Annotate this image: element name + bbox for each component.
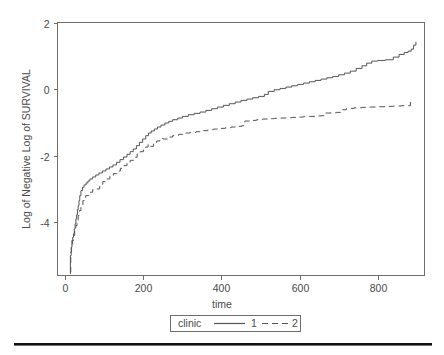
x-tick-label-600: 600	[292, 282, 310, 294]
survival-chart: 0200400600800 20-2-4 time Log of Negativ…	[0, 0, 444, 355]
y-tick-label-0: 0	[44, 84, 50, 96]
x-tick-label-400: 400	[213, 282, 231, 294]
y-axis-title: Log of Negative Log of SURVIVAL	[20, 69, 32, 229]
legend-title: clinic	[178, 317, 201, 329]
x-tick-label-800: 800	[370, 282, 388, 294]
legend-label-series-2: 2	[292, 317, 298, 329]
figure-container: 0200400600800 20-2-4 time Log of Negativ…	[0, 0, 444, 355]
bottom-divider-rule	[14, 343, 432, 346]
legend: clinic 1 2	[171, 316, 301, 332]
y-tick-label--4: -4	[40, 217, 49, 229]
x-tick-label-200: 200	[135, 282, 153, 294]
x-axis-title: time	[212, 298, 232, 310]
y-tick-label-2: 2	[44, 18, 50, 30]
x-tick-label-0: 0	[63, 282, 69, 294]
y-tick-label--2: -2	[40, 151, 49, 163]
legend-label-series-1: 1	[251, 317, 257, 329]
